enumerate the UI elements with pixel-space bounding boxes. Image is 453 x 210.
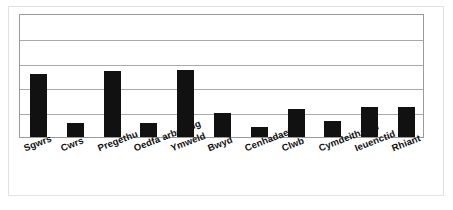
bar bbox=[30, 74, 47, 137]
chart-screenshot: SgwrsCwrsPregethuOedfa arbennigYmweldBwy… bbox=[0, 0, 453, 210]
bars-layer bbox=[20, 15, 423, 137]
bar bbox=[104, 71, 121, 137]
plot-area bbox=[19, 14, 424, 138]
category-label: Cwrs bbox=[59, 135, 85, 154]
category-labels: SgwrsCwrsPregethuOedfa arbennigYmweldBwy… bbox=[19, 138, 424, 202]
bar bbox=[398, 107, 415, 137]
